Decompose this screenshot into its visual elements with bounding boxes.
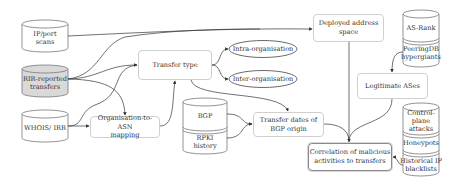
org-asn-line2: mapping: [91, 131, 159, 140]
edge-rpki-to-dates: [227, 124, 252, 138]
peeringdb-line2: hypergiants: [401, 53, 441, 61]
ip-port-line2: scans: [33, 38, 56, 46]
label-rpki-history: RPKIhistory: [183, 132, 227, 152]
label-whois-irr: WHOIS/ IRR: [22, 118, 68, 138]
edge-ip-to-deployed: [68, 29, 312, 36]
label-peeringdb-hypergiants: PeeringDBhypergiants: [399, 43, 443, 63]
rpki-line1: RPKI: [193, 134, 216, 142]
correlation-line1: Correlation of malicious: [310, 148, 391, 157]
dates-line1: Transfer dates of: [260, 116, 317, 125]
node-organisation-to-asn-mapping: Organisation-to-ASNmapping: [90, 116, 160, 138]
node-legitimate-ases: Legitimate ASes: [357, 73, 428, 99]
edge-bgp-to-dates: [227, 114, 252, 124]
label-bgp: BGP: [183, 106, 227, 126]
edge-dates-to-correlation: [324, 124, 349, 140]
node-transfer-dates-bgp-origin: Transfer dates ofBGP origin: [253, 112, 324, 137]
edge-rir-to-transfertype: [68, 65, 137, 79]
org-asn-line1: Organisation-to-ASN: [91, 114, 159, 131]
control-plane-line2: attacks: [399, 125, 443, 133]
rir-line2: transfers: [23, 83, 67, 91]
edge-transfertype-to-intra: [212, 49, 228, 65]
label-control-plane-attacks: Control-planeattacks: [399, 111, 443, 131]
label-ip-port-scans: IP/portscans: [22, 28, 68, 48]
label-honeypots: Honeypots: [399, 136, 443, 150]
node-correlation-malicious-activities: Correlation of maliciousactivities to tr…: [308, 143, 392, 171]
rir-line1: RIR-reported: [23, 75, 67, 83]
blacklists-line2: blacklists: [400, 165, 442, 173]
label-rir-reported-transfers: RIR-reportedtransfers: [20, 73, 70, 93]
label-as-rank: AS-Rank: [401, 19, 441, 37]
label-intra-organisation: Intra-organisation: [229, 41, 297, 58]
ip-port-line1: IP/port: [33, 30, 56, 38]
label-inter-organisation: Inter-organisation: [229, 71, 297, 88]
deployed-line1: Deployed address: [319, 19, 379, 28]
edge-orgasn-to-transfertype: [160, 81, 175, 126]
deployed-line2: space: [319, 28, 379, 37]
label-historical-ip-blacklists: Historical IPblacklists: [399, 155, 443, 175]
edge-legit-to-correlation: [349, 99, 392, 140]
node-deployed-address-space: Deployed addressspace: [313, 14, 384, 42]
blacklists-line1: Historical IP: [400, 157, 442, 165]
correlation-line2: activities to transfers: [310, 157, 391, 166]
node-transfer-type: Transfer type: [138, 50, 212, 80]
peeringdb-line1: PeeringDB: [401, 45, 441, 53]
rpki-line2: history: [193, 142, 216, 150]
control-plane-line1: Control-plane: [399, 109, 443, 125]
dates-line2: BGP origin: [260, 125, 317, 134]
edge-transfertype-to-inter: [212, 65, 228, 79]
